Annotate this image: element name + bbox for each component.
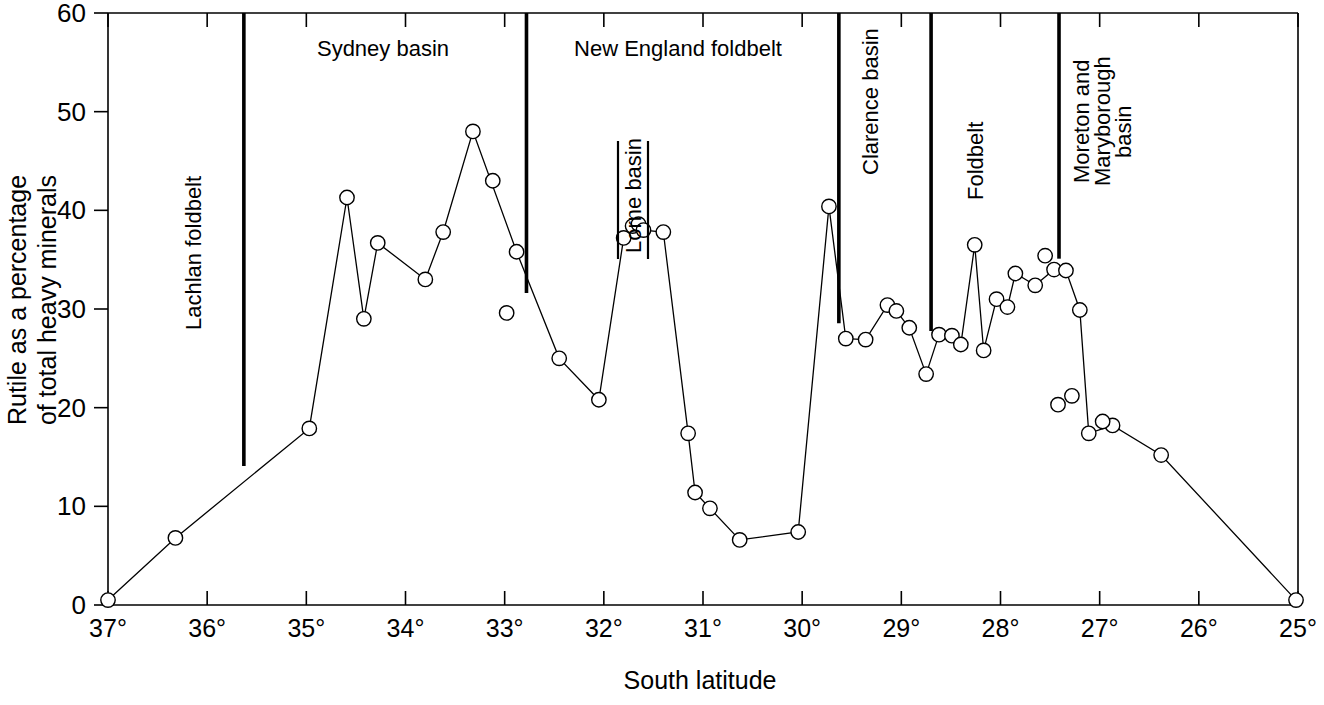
data-point-marker (509, 245, 523, 259)
data-point-marker (656, 225, 670, 239)
x-axis-tick-label: 34° (387, 614, 425, 642)
data-point-marker (822, 199, 836, 213)
data-point-marker (552, 351, 566, 365)
rutile-latitude-line-chart: 0102030405060 37°36°35°34°33°32°31°30°29… (0, 0, 1324, 705)
data-point-marker (1289, 593, 1303, 607)
data-point-marker (688, 485, 702, 499)
data-point-marker (466, 124, 480, 138)
data-point-marker (681, 426, 695, 440)
data-point-marker (1082, 426, 1096, 440)
y-axis-tick-label: 20 (57, 393, 86, 423)
x-axis-tick-label: 36° (188, 614, 226, 642)
data-point-marker (858, 332, 872, 346)
x-axis-tick-label: 25° (1279, 614, 1317, 642)
data-point-marker (919, 367, 933, 381)
y-axis-tick-label: 10 (57, 491, 86, 521)
x-axis-tick-label: 28° (982, 614, 1020, 642)
data-point-marker (1000, 300, 1014, 314)
data-point-marker (791, 525, 805, 539)
data-point-marker (902, 321, 916, 335)
x-axis-tick-label: 32° (585, 614, 623, 642)
data-point-marker (968, 238, 982, 252)
data-point-marker-unconnected (486, 174, 500, 188)
y-axis-title-line2: of total heavy minerals (33, 175, 61, 425)
region-label-text: Clarence basin (858, 28, 883, 175)
data-point-marker (1059, 263, 1073, 277)
y-axis-title-line1: Rutile as a percentage (3, 175, 31, 425)
data-point-marker (101, 593, 115, 607)
data-point-marker-unconnected (1038, 249, 1052, 263)
x-axis-tick-label: 30° (783, 614, 821, 642)
region-label-text: Lorne basin (621, 138, 646, 253)
region-label-text: Sydney basin (317, 36, 449, 61)
y-axis-tick-label: 0 (72, 590, 86, 620)
data-point-marker (1028, 278, 1042, 292)
data-point-marker-unconnected (1065, 389, 1079, 403)
x-axis-tick-label: 31° (684, 614, 722, 642)
y-axis-tick-label: 60 (57, 0, 86, 28)
data-point-marker (168, 531, 182, 545)
x-axis-tick-label: 26° (1180, 614, 1218, 642)
data-point-marker (436, 225, 450, 239)
region-label-text: New England foldbelt (574, 36, 782, 61)
data-point-marker (839, 331, 853, 345)
data-point-marker (1154, 448, 1168, 462)
data-point-marker-unconnected (499, 306, 513, 320)
data-point-marker (954, 337, 968, 351)
region-label-text: basin (1111, 105, 1136, 158)
y-axis-tick-label: 30 (57, 294, 86, 324)
data-point-marker (889, 304, 903, 318)
data-point-marker (371, 236, 385, 250)
data-point-marker-unconnected (1095, 414, 1109, 428)
data-point-marker (976, 343, 990, 357)
region-label-text: Lachlan foldbelt (181, 176, 206, 330)
x-axis-title: South latitude (624, 666, 777, 694)
chart-figure: 0102030405060 37°36°35°34°33°32°31°30°29… (0, 0, 1324, 705)
region-label-text: Foldbelt (963, 122, 988, 200)
data-point-marker (1008, 266, 1022, 280)
x-axis-tick-label: 29° (882, 614, 920, 642)
data-point-marker (357, 312, 371, 326)
data-point-marker (1073, 303, 1087, 317)
data-point-marker (340, 190, 354, 204)
data-point-marker (703, 501, 717, 515)
data-point-marker (302, 421, 316, 435)
data-point-marker (732, 533, 746, 547)
data-point-marker (932, 327, 946, 341)
data-point-marker (592, 393, 606, 407)
x-axis-tick-label: 33° (486, 614, 524, 642)
x-axis-tick-label: 37° (89, 614, 127, 642)
region-label-boxed: Lorne basin (618, 138, 648, 259)
x-axis-tick-label: 27° (1081, 614, 1119, 642)
data-point-marker (418, 272, 432, 286)
x-axis-tick-label: 35° (287, 614, 325, 642)
data-point-marker-unconnected (1051, 398, 1065, 412)
y-axis-tick-label: 40 (57, 195, 86, 225)
y-axis-tick-label: 50 (57, 97, 86, 127)
